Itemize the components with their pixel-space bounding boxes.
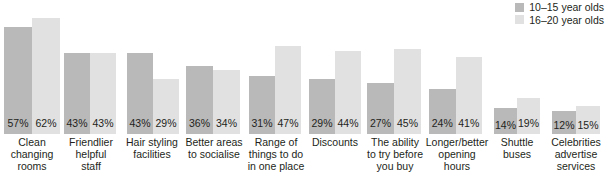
bar-value-label: 62% xyxy=(32,118,60,129)
bar-group: 43%43% xyxy=(64,18,116,134)
bar-value-label: 36% xyxy=(186,118,213,129)
bar: 62% xyxy=(32,18,60,134)
category-label-line: Discounts xyxy=(306,136,364,148)
category-label-line: The ability xyxy=(362,136,428,148)
bar-value-label: 43% xyxy=(64,118,90,129)
bar-group: 29%44% xyxy=(309,18,361,134)
bar-group: 12%15% xyxy=(552,18,600,134)
category-label: Discounts xyxy=(306,136,364,148)
bar-value-label: 19% xyxy=(517,118,540,129)
bar-value-label: 12% xyxy=(552,120,576,131)
bar-pair: 24%41% xyxy=(429,18,482,134)
bar-pair: 43%43% xyxy=(64,18,116,134)
category-label: Better areasto socialise xyxy=(182,136,246,160)
chart-container: 10–15 year olds 16–20 year olds 57%62%43… xyxy=(0,0,608,185)
category-label: Celebritiesadvertiseservices xyxy=(546,136,606,173)
bar: 29% xyxy=(309,79,335,134)
plot-area: 57%62%43%43%43%29%36%34%31%47%29%44%27%4… xyxy=(0,18,608,134)
category-label-line: things to do xyxy=(244,148,308,160)
chart-title-clipped xyxy=(0,0,330,9)
category-label-line: buses xyxy=(490,148,544,160)
bar-value-label: 24% xyxy=(429,118,456,129)
bar-pair: 36%34% xyxy=(186,18,240,134)
category-label-line: you buy xyxy=(362,160,428,172)
bar-pair: 29%44% xyxy=(309,18,361,134)
category-label: Cleanchangingrooms xyxy=(2,136,62,173)
bar-value-label: 29% xyxy=(153,118,179,129)
legend-item-10-15: 10–15 year olds xyxy=(515,2,604,13)
bar: 43% xyxy=(64,53,90,134)
category-label: The abilityto try beforeyou buy xyxy=(362,136,428,173)
bar: 34% xyxy=(213,70,240,134)
bar-value-label: 43% xyxy=(90,118,116,129)
category-label-line: Range of xyxy=(244,136,308,148)
category-label-line: helpful xyxy=(62,148,120,160)
category-label-line: to socialise xyxy=(182,148,246,160)
bar: 27% xyxy=(367,83,394,134)
bar-value-label: 14% xyxy=(494,120,517,131)
category-label-line: Hair styling xyxy=(120,136,184,148)
bar-value-label: 34% xyxy=(213,118,240,129)
bar: 43% xyxy=(127,53,153,134)
bar-group: 27%45% xyxy=(367,18,421,134)
category-label: Friendlierhelpfulstaff xyxy=(62,136,120,173)
bar: 14% xyxy=(494,108,517,134)
category-label-line: hours xyxy=(424,160,490,172)
bar-group: 43%29% xyxy=(127,18,179,134)
bar-value-label: 27% xyxy=(367,118,394,129)
bar: 57% xyxy=(4,27,32,134)
bar-value-label: 57% xyxy=(4,118,32,129)
legend-label: 10–15 year olds xyxy=(529,2,604,13)
bar-pair: 14%19% xyxy=(494,18,540,134)
bar: 44% xyxy=(335,51,361,134)
bar-group: 36%34% xyxy=(186,18,240,134)
category-label-line: services xyxy=(546,160,606,172)
bar-value-label: 45% xyxy=(394,118,421,129)
category-label: Range ofthings to doin one place xyxy=(244,136,308,173)
bar-value-label: 47% xyxy=(275,118,301,129)
bar: 24% xyxy=(429,89,456,134)
category-label-line: Better areas xyxy=(182,136,246,148)
category-label-line: Celebrities xyxy=(546,136,606,148)
category-label-line: Clean xyxy=(2,136,62,148)
category-label-line: facilities xyxy=(120,148,184,160)
bar-value-label: 44% xyxy=(335,118,361,129)
bar-value-label: 31% xyxy=(249,118,275,129)
category-label-line: in one place xyxy=(244,160,308,172)
bar: 43% xyxy=(90,53,116,134)
category-label-line: Longer/better xyxy=(424,136,490,148)
category-label-line: staff xyxy=(62,160,120,172)
category-label-line: rooms xyxy=(2,160,62,172)
category-label: Longer/betteropeninghours xyxy=(424,136,490,173)
bar: 47% xyxy=(275,46,301,134)
bar-pair: 31%47% xyxy=(249,18,301,134)
bar-value-label: 41% xyxy=(456,118,483,129)
category-label-line: Friendlier xyxy=(62,136,120,148)
category-label-line: advertise xyxy=(546,148,606,160)
bar: 15% xyxy=(576,106,600,134)
bar-pair: 27%45% xyxy=(367,18,421,134)
bar-pair: 57%62% xyxy=(4,18,60,134)
bar-group: 57%62% xyxy=(4,18,60,134)
bar-group: 14%19% xyxy=(494,18,540,134)
bar-group: 24%41% xyxy=(429,18,482,134)
bar: 12% xyxy=(552,111,576,134)
category-label: Shuttlebuses xyxy=(490,136,544,160)
category-label-line: to try before xyxy=(362,148,428,160)
category-axis: CleanchangingroomsFriendlierhelpfulstaff… xyxy=(0,136,608,185)
legend-swatch-icon xyxy=(515,3,524,12)
bar: 31% xyxy=(249,76,275,134)
bar: 36% xyxy=(186,66,213,134)
category-label-line: changing xyxy=(2,148,62,160)
category-label: Hair stylingfacilities xyxy=(120,136,184,160)
bar-value-label: 43% xyxy=(127,118,153,129)
bar: 29% xyxy=(153,79,179,134)
bar: 19% xyxy=(517,98,540,134)
category-label-line: opening xyxy=(424,148,490,160)
bar-pair: 43%29% xyxy=(127,18,179,134)
bar: 45% xyxy=(394,49,421,134)
category-label-line: Shuttle xyxy=(490,136,544,148)
bar-group: 31%47% xyxy=(249,18,301,134)
bar-value-label: 29% xyxy=(309,118,335,129)
bar: 41% xyxy=(456,57,483,134)
